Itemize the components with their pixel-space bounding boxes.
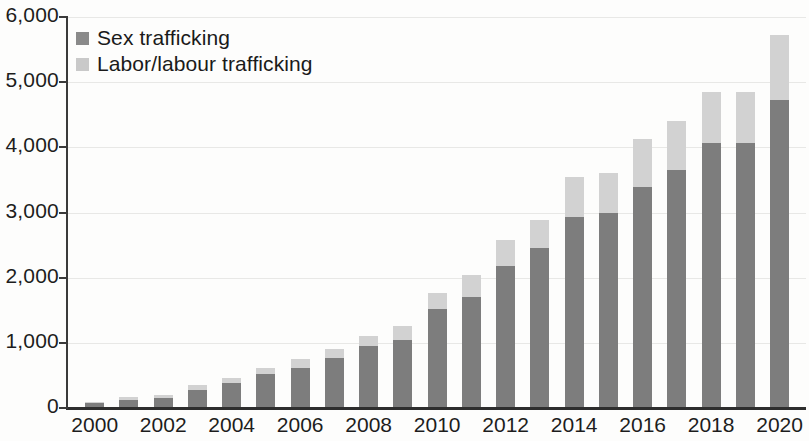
bar-segment-sex-trafficking <box>599 213 618 408</box>
bar-segment-sex-trafficking <box>291 368 310 408</box>
bar <box>393 326 412 408</box>
chart-legend: Sex trafficking Labor/labour trafficking <box>76 25 313 77</box>
light-gray-swatch-icon <box>76 58 89 71</box>
bar-segment-labor-trafficking <box>325 349 344 359</box>
bar-segment-sex-trafficking <box>359 346 378 408</box>
bar <box>256 368 275 408</box>
y-axis-tick-label: 3,000 <box>0 199 59 223</box>
bar-segment-sex-trafficking <box>633 187 652 408</box>
y-axis-tick <box>59 146 68 148</box>
bar <box>222 378 241 408</box>
bar <box>188 385 207 408</box>
bar <box>359 336 378 408</box>
bar <box>496 240 515 408</box>
bar-segment-labor-trafficking <box>770 35 789 101</box>
legend-label: Labor/labour trafficking <box>97 52 313 76</box>
bar <box>565 177 584 408</box>
bar-segment-labor-trafficking <box>291 359 310 368</box>
x-axis-tick-label: 2020 <box>740 413 809 437</box>
bar-segment-labor-trafficking <box>428 293 447 309</box>
y-axis-tick <box>59 212 68 214</box>
y-axis-tick-label: 6,000 <box>0 3 59 27</box>
bar-segment-sex-trafficking <box>736 143 755 408</box>
bar <box>462 275 481 408</box>
legend-item-sex-trafficking: Sex trafficking <box>76 25 313 51</box>
y-axis-tick-label: 4,000 <box>0 133 59 157</box>
bar <box>702 92 721 408</box>
y-axis-tick <box>59 407 68 409</box>
y-axis-tick <box>59 81 68 83</box>
bar-segment-sex-trafficking <box>222 383 241 408</box>
bar-segment-sex-trafficking <box>393 340 412 408</box>
bar <box>325 349 344 408</box>
y-axis-tick-label: 1,000 <box>0 329 59 353</box>
bar-segment-labor-trafficking <box>530 220 549 249</box>
x-axis-line <box>66 407 806 410</box>
bar-segment-labor-trafficking <box>736 92 755 143</box>
bar-segment-sex-trafficking <box>530 248 549 408</box>
bar <box>633 139 652 408</box>
bar <box>736 92 755 408</box>
y-axis-tick-label: 2,000 <box>0 264 59 288</box>
bar-segment-sex-trafficking <box>702 143 721 408</box>
bar-segment-labor-trafficking <box>565 177 584 217</box>
y-axis-tick <box>59 16 68 18</box>
bar <box>667 121 686 408</box>
legend-label: Sex trafficking <box>97 26 230 50</box>
bar-segment-sex-trafficking <box>462 297 481 408</box>
bar-segment-sex-trafficking <box>325 358 344 408</box>
bar-segment-labor-trafficking <box>599 173 618 213</box>
y-axis-tick <box>59 342 68 344</box>
bar-segment-labor-trafficking <box>702 92 721 143</box>
bar <box>599 173 618 408</box>
bar-segment-sex-trafficking <box>428 309 447 408</box>
bar <box>530 220 549 408</box>
y-axis-tick-label: 5,000 <box>0 68 59 92</box>
bar-segment-sex-trafficking <box>770 100 789 408</box>
bar-segment-labor-trafficking <box>359 336 378 346</box>
bar <box>291 359 310 409</box>
bar-segment-labor-trafficking <box>462 275 481 297</box>
dark-gray-swatch-icon <box>76 32 89 45</box>
bar-segment-sex-trafficking <box>188 390 207 408</box>
bar-segment-sex-trafficking <box>565 217 584 408</box>
bar-segment-labor-trafficking <box>633 139 652 187</box>
bar-segment-sex-trafficking <box>256 374 275 408</box>
bar <box>428 293 447 408</box>
y-axis-tick <box>59 277 68 279</box>
bar-segment-labor-trafficking <box>667 121 686 169</box>
bar-segment-labor-trafficking <box>393 326 412 340</box>
y-axis-tick-label: 0 <box>0 394 59 418</box>
legend-item-labor-trafficking: Labor/labour trafficking <box>76 51 313 77</box>
stacked-bar-chart: 01,0002,0003,0004,0005,0006,000 20002002… <box>0 0 809 441</box>
bar-segment-sex-trafficking <box>667 170 686 409</box>
bar-segment-sex-trafficking <box>496 266 515 408</box>
bar <box>770 35 789 408</box>
bar-segment-labor-trafficking <box>496 240 515 266</box>
